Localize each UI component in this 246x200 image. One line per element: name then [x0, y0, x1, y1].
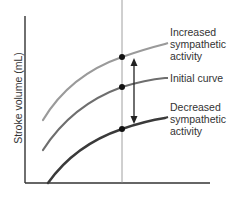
label-increased-line1: Increased [170, 26, 226, 38]
dot-decreased [119, 126, 125, 132]
dot-initial [119, 84, 125, 90]
label-decreased-line3: activity [170, 125, 226, 137]
label-decreased-line1: Decreased [170, 101, 226, 113]
leader-increased [165, 43, 168, 44]
y-axis-label: Stroke volume (mL) [12, 48, 24, 148]
curve-decreased [48, 118, 165, 183]
label-increased: Increased sympathetic activity [170, 26, 226, 62]
label-decreased-line2: sympathetic [170, 113, 226, 125]
curve-increased [43, 44, 165, 120]
leader-decreased [165, 117, 168, 118]
label-initial: Initial curve [170, 72, 223, 84]
curve-initial [43, 78, 165, 150]
dot-increased [119, 54, 125, 60]
arrow-down-icon [131, 116, 138, 124]
arrow-up-icon [131, 58, 138, 66]
label-decreased: Decreased sympathetic activity [170, 101, 226, 137]
label-increased-line3: activity [170, 50, 226, 62]
label-increased-line2: sympathetic [170, 38, 226, 50]
